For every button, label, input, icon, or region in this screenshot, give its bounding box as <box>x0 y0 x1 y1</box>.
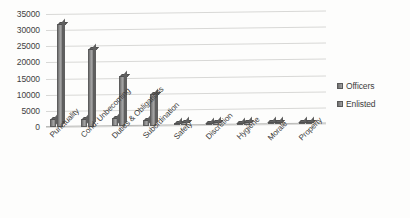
bar-enlisted <box>57 24 63 127</box>
y-tick-label: 0 <box>35 123 40 132</box>
y-tick-label: 20000 <box>17 58 40 67</box>
y-tick-label: 30000 <box>17 26 40 35</box>
bar-groups <box>46 14 326 127</box>
x-axis-category-labels: PunctualityCond. UnbecomingDuties & Obli… <box>46 129 326 217</box>
bar-group <box>299 11 312 124</box>
legend-item: Enlisted <box>337 100 375 109</box>
legend-swatch-icon <box>337 101 343 107</box>
legend-label: Enlisted <box>346 100 375 109</box>
bar-group <box>206 12 219 125</box>
bar-enlisted <box>88 49 94 126</box>
bar-officers <box>174 123 180 125</box>
chart-legend: OfficersEnlisted <box>337 82 375 117</box>
legend-item: Officers <box>337 82 375 91</box>
plot-area <box>46 14 326 127</box>
y-axis-tick-labels: 35000300002500020000150001000050000 <box>0 14 42 127</box>
bar-group <box>237 12 250 125</box>
y-tick-label: 35000 <box>17 10 40 19</box>
y-tick-label: 15000 <box>17 74 40 83</box>
legend-label: Officers <box>346 82 374 91</box>
y-tick-label: 5000 <box>21 107 40 116</box>
y-tick-label: 10000 <box>17 90 40 99</box>
bar-side-face <box>62 19 65 126</box>
bar-chart: 35000300002500020000150001000050000 Punc… <box>0 0 410 218</box>
bar-group <box>81 14 94 127</box>
y-tick-label: 25000 <box>17 42 40 51</box>
bar-side-face <box>93 44 96 126</box>
bar-group <box>50 14 63 127</box>
bar-group <box>268 11 281 124</box>
legend-swatch-icon <box>337 83 343 89</box>
